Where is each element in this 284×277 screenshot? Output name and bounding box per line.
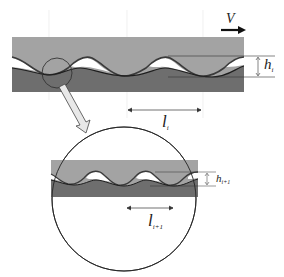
height-label-zoom: hi+1 — [216, 173, 230, 184]
zoom-block — [51, 160, 198, 197]
zoom-circle — [52, 127, 196, 271]
velocity-label: V — [226, 12, 235, 26]
diagram-canvas — [0, 0, 284, 277]
wavelength-label-zoom: li+1 — [148, 212, 163, 229]
velocity-arrow — [221, 26, 246, 34]
wavelength-label-top: li — [162, 113, 169, 130]
height-label-top: hi — [264, 57, 273, 72]
